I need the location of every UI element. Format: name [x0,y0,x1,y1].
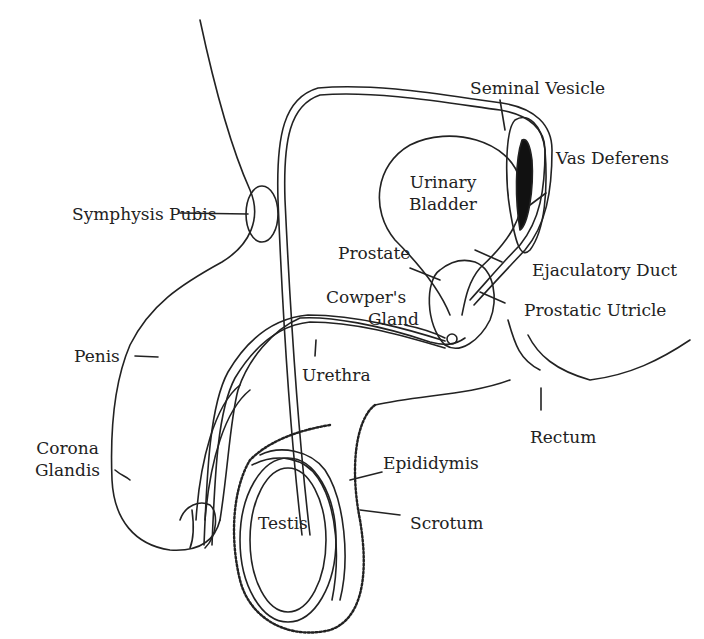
label-urinary: Urinary [398,172,488,192]
label-urethra: Urethra [302,365,371,385]
label-prostate: Prostate [338,243,410,263]
anatomy-diagram: Seminal Vesicle Vas Deferens Urinary Bla… [0,0,704,639]
label-glandis: Glandis [30,460,105,480]
label-testis: Testis [258,513,308,533]
label-seminal-vesicle: Seminal Vesicle [470,78,605,98]
label-corona: Corona [30,438,105,458]
label-cowpers: Cowper's [326,287,406,307]
label-ejaculatory-duct: Ejaculatory Duct [532,260,677,280]
label-symphysis-pubis: Symphysis Pubis [72,204,217,224]
label-gland: Gland [368,309,419,329]
label-penis: Penis [74,346,120,366]
label-rectum: Rectum [530,427,596,447]
label-prostatic-utricle: Prostatic Utricle [524,300,666,320]
label-epididymis: Epididymis [383,453,479,473]
label-scrotum: Scrotum [410,513,483,533]
label-vas-deferens: Vas Deferens [556,148,669,168]
label-bladder: Bladder [398,194,488,214]
